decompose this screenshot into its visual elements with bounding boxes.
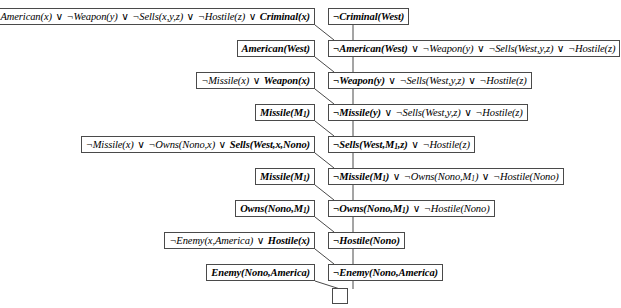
resolution-edge-diagonal-3	[315, 121, 334, 136]
res-not-missile-m1: ¬Missile(M1) ∨ ¬Owns(Nono,M1) ∨ ¬Hostile…	[328, 168, 564, 185]
kb-missile-m1-a: Missile(M1)	[255, 104, 315, 121]
resolution-edge-diagonal-4	[315, 153, 334, 168]
kb-nono-sells-rule: ¬Missile(x) ∨ ¬Owns(Nono,x) ∨ Sells(West…	[81, 136, 315, 153]
resolution-edge-diagonal-2	[315, 89, 334, 104]
resolution-edge-diagonal-6	[315, 217, 334, 232]
resolution-edge-diagonal-1	[315, 57, 334, 72]
kb-missile-m1-b: Missile(M1)	[255, 168, 315, 185]
res-not-hostile-nono: ¬Hostile(Nono)	[328, 232, 405, 249]
res-not-sells-west-m1-z: ¬Sells(West,M1,z) ∨ ¬Hostile(z)	[328, 136, 475, 153]
kb-american-west: American(West)	[237, 40, 315, 57]
res-not-missile-y: ¬Missile(y) ∨ ¬Sells(West,y,z) ∨ ¬Hostil…	[328, 104, 528, 121]
res-not-weapon-y: ¬Weapon(y) ∨ ¬Sells(West,y,z) ∨ ¬Hostile…	[328, 72, 532, 89]
empty-clause-box	[332, 288, 348, 304]
goal-not-criminal-west: ¬Criminal(West)	[328, 8, 409, 25]
res-not-enemy-nono-america: ¬Enemy(Nono,America)	[328, 264, 443, 281]
kb-owns-nono-m1: Owns(Nono,M1)	[235, 200, 315, 217]
kb-enemy-implies-hostile: ¬Enemy(x,America) ∨ Hostile(x)	[164, 232, 315, 249]
resolution-proof-figure: ¬American(x) ∨ ¬Weapon(y) ∨ ¬Sells(x,y,z…	[0, 0, 621, 308]
kb-missile-implies-weapon: ¬Missile(x) ∨ Weapon(x)	[196, 72, 315, 89]
res-not-american-west: ¬American(West) ∨ ¬Weapon(y) ∨ ¬Sells(We…	[328, 40, 620, 57]
resolution-edge-diagonal-7	[315, 249, 334, 264]
resolution-edge-diagonal-5	[315, 185, 334, 200]
res-not-owns-nono-m1: ¬Owns(Nono,M1) ∨ ¬Hostile(Nono)	[328, 200, 495, 217]
kb-colonel-west-rule: ¬American(x) ∨ ¬Weapon(y) ∨ ¬Sells(x,y,z…	[0, 8, 315, 25]
resolution-edge-diagonal-0	[315, 25, 334, 40]
kb-enemy-nono-america: Enemy(Nono,America)	[206, 264, 315, 281]
